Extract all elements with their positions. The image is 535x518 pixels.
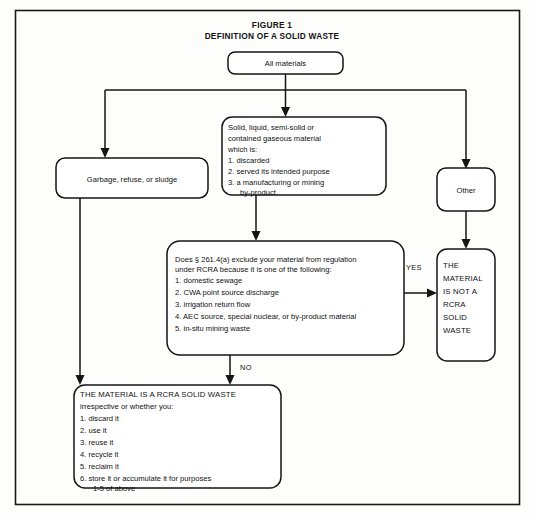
node-solid-liquid-line3: which is:	[227, 145, 257, 154]
node-is-waste-line4: 2. use it	[80, 426, 107, 435]
node-decision-line4: 2. CWA point source discharge	[175, 288, 279, 297]
arrowhead-to-solid-liquid	[281, 107, 290, 117]
node-not-waste-line6: WASTE	[443, 326, 471, 335]
node-is-waste-line1: THE MATERIAL IS A RCRA SOLID WASTE	[80, 390, 236, 399]
node-decision-line5: 3. irrigation return flow	[175, 300, 251, 309]
edge-label-no: NO	[240, 363, 252, 372]
node-is-waste-line7: 5. reclaim it	[80, 462, 120, 471]
node-not-waste-line2: MATERIAL	[443, 274, 483, 283]
node-decision-line3: 1. domestic sewage	[175, 276, 242, 285]
arrowhead-to-garbage	[101, 148, 110, 158]
arrowhead-other-to-not-waste	[462, 239, 471, 249]
node-solid-liquid-line1: Solid, liquid, semi-solid or	[228, 123, 315, 132]
node-is-a-rcra-solid-waste[interactable]	[74, 385, 281, 488]
node-solid-liquid-line2: contained gaseous material	[228, 134, 321, 143]
node-garbage-label: Garbage, refuse, or sludge	[87, 175, 177, 184]
solid-waste-definition-flowchart: FIGURE 1 DEFINITION OF A SOLID WASTE All…	[0, 0, 535, 518]
node-is-waste-line9: 1-5 of above	[93, 484, 135, 493]
node-other-label: Other	[457, 186, 476, 195]
figure-title-line1: FIGURE 1	[252, 20, 292, 30]
node-is-waste-line8: 6. store it or accumulate it for purpose…	[80, 474, 211, 483]
node-decision-line2: under RCRA because it is one of the foll…	[175, 265, 332, 274]
arrowhead-garbage-to-is-waste	[76, 375, 85, 385]
node-all-materials-label: All materials	[265, 59, 307, 68]
node-solid-liquid-line6: 3. a manufacturing or mining	[228, 178, 324, 187]
node-solid-liquid-line5: 2. served its intended purpose	[228, 167, 330, 176]
node-solid-liquid-line4: 1. discarded	[228, 156, 269, 165]
arrowhead-no-to-is-waste	[226, 375, 235, 385]
node-is-waste-line2: irrespective or whether you:	[80, 402, 173, 411]
node-is-waste-line6: 4. recycle it	[80, 450, 119, 459]
node-not-waste-line1: THE	[443, 261, 459, 270]
node-is-waste-line3: 1. discard it	[80, 414, 120, 423]
node-decision-line7: 5. in-situ mining waste	[175, 324, 250, 333]
node-not-waste-line4: RCRA	[443, 300, 466, 309]
figure-title-line2: DEFINITION OF A SOLID WASTE	[205, 31, 340, 41]
node-not-waste-line5: SOLID	[443, 313, 467, 322]
node-decision-line1: Does § 261.4(a) exclude your material fr…	[175, 255, 357, 264]
arrowhead-to-decision	[252, 231, 261, 241]
arrowhead-yes-to-not-waste	[427, 289, 437, 298]
node-solid-liquid-line7: by-product	[240, 188, 277, 197]
edge-label-yes: YES	[406, 263, 422, 272]
node-not-waste-line3: IS NOT A	[443, 287, 478, 296]
node-is-waste-line5: 3. reuse it	[80, 438, 114, 447]
node-decision-line6: 4. AEC source, special nuclear, or by-pr…	[175, 312, 356, 321]
